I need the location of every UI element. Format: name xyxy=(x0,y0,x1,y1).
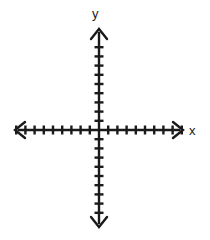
x-axis-label: x xyxy=(189,124,196,137)
y-axis-label: y xyxy=(92,7,99,20)
coordinate-plane-figure: y x xyxy=(0,0,210,240)
coordinate-axes-diagram xyxy=(0,0,210,240)
